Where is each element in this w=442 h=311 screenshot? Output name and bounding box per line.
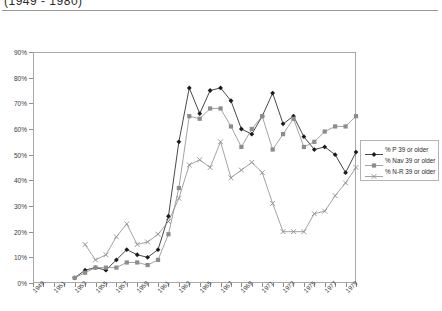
data-point-square	[125, 260, 129, 264]
y-axis-tick-label: 40%	[0, 177, 27, 184]
series-1	[73, 106, 359, 280]
y-axis-tick-label: 60%	[0, 126, 27, 133]
data-point-square	[177, 186, 181, 190]
data-point-square	[156, 258, 160, 262]
data-point-cross	[343, 181, 348, 186]
y-axis-tick-label: 90%	[0, 49, 27, 56]
data-point-cross	[239, 168, 244, 173]
data-point-cross	[135, 242, 140, 247]
data-point-square	[73, 276, 77, 280]
legend-label: % Nav 39 or older	[384, 157, 435, 164]
data-point-diamond	[197, 111, 202, 116]
data-point-square	[354, 114, 358, 118]
data-point-square	[114, 266, 118, 270]
data-point-square	[208, 106, 212, 110]
data-point-square	[302, 145, 306, 149]
data-point-square	[166, 232, 170, 236]
data-point-diamond	[270, 91, 275, 96]
data-point-square	[250, 127, 254, 131]
data-point-square	[343, 124, 347, 128]
data-point-cross	[197, 157, 202, 162]
data-point-square	[323, 129, 327, 133]
data-point-cross	[124, 222, 129, 227]
data-point-cross	[114, 234, 119, 239]
data-point-square	[312, 140, 316, 144]
data-point-cross	[104, 252, 109, 257]
data-point-cross	[83, 242, 88, 247]
data-point-square	[239, 145, 243, 149]
data-point-diamond	[176, 139, 181, 144]
data-point-square	[187, 114, 191, 118]
data-series-layer	[33, 52, 356, 283]
header-divider	[2, 10, 438, 11]
legend-item[interactable]: % P 39 or older	[364, 144, 435, 155]
data-point-diamond	[208, 88, 213, 93]
data-point-square	[198, 117, 202, 121]
legend-marker-square-icon	[364, 156, 384, 165]
data-point-square	[104, 266, 108, 270]
data-point-square	[281, 132, 285, 136]
series-line	[75, 88, 356, 278]
y-axis-tick-label: 80%	[0, 74, 27, 81]
legend-label: % P 39 or older	[384, 146, 428, 153]
y-axis-tick-label: 50%	[0, 151, 27, 158]
data-point-diamond	[354, 150, 359, 155]
data-point-cross	[312, 211, 317, 216]
series-line	[75, 108, 356, 277]
y-axis-tick-label: 70%	[0, 100, 27, 107]
data-point-cross	[208, 165, 213, 170]
data-point-cross	[156, 232, 161, 237]
series-line	[85, 142, 356, 260]
line-chart: 0%10%20%30%40%50%60%70%80%90% 1949195119…	[0, 14, 442, 311]
data-point-square	[218, 106, 222, 110]
data-point-diamond	[239, 127, 244, 132]
chart-page: (1949 - 1980) 0%10%20%30%40%50%60%70%80%…	[0, 0, 442, 311]
data-point-square	[93, 266, 97, 270]
legend-item[interactable]: % Nav 39 or older	[364, 155, 435, 166]
data-point-cross	[260, 170, 265, 175]
page-title: (1949 - 1980)	[4, 0, 83, 8]
legend-item[interactable]: % N-R 39 or older	[364, 166, 435, 177]
data-point-cross	[176, 196, 181, 201]
data-point-square	[291, 117, 295, 121]
y-axis-tick-label: 30%	[0, 203, 27, 210]
data-point-diamond	[187, 86, 192, 91]
data-point-cross	[270, 201, 275, 206]
data-point-cross	[333, 193, 338, 198]
data-point-square	[83, 271, 87, 275]
y-axis-tick-label: 0%	[0, 280, 27, 287]
y-axis-tick-label: 10%	[0, 254, 27, 261]
data-point-cross	[93, 258, 98, 263]
data-point-square	[260, 114, 264, 118]
legend-marker-diamond-icon	[364, 145, 384, 154]
series-0	[72, 86, 358, 281]
legend-label: % N-R 39 or older	[384, 168, 435, 175]
data-point-square	[146, 263, 150, 267]
chart-legend: % P 39 or older% Nav 39 or older% N-R 39…	[360, 140, 439, 181]
data-point-diamond	[343, 170, 348, 175]
data-point-diamond	[135, 252, 140, 257]
series-2	[83, 139, 359, 262]
data-point-cross	[229, 175, 234, 180]
data-point-square	[333, 124, 337, 128]
data-point-cross	[322, 209, 327, 214]
data-point-cross	[249, 160, 254, 165]
data-point-cross	[145, 240, 150, 245]
data-point-cross	[187, 163, 192, 168]
data-point-cross	[218, 139, 223, 144]
legend-marker-cross-icon	[364, 167, 384, 176]
data-point-square	[229, 124, 233, 128]
data-point-cross	[354, 165, 359, 170]
data-point-square	[135, 260, 139, 264]
y-axis-tick-label: 20%	[0, 228, 27, 235]
data-point-square	[271, 147, 275, 151]
